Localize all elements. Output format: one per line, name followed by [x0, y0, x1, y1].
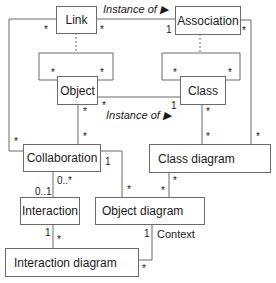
label-instance-of-top: Instance of ▶ [103, 4, 168, 15]
connector-lines [0, 0, 276, 283]
label-instance-of-mid: Instance of ▶ [106, 110, 171, 121]
node-link-label: Link [65, 14, 87, 26]
mult-assoc-left: 1 [166, 25, 172, 35]
mult-classdiag-right: * [256, 132, 260, 142]
mult-intdiag-right: * [142, 264, 146, 274]
mult-objdiag-context: 1 [144, 229, 150, 239]
mult-classdiag-down: * [173, 176, 177, 186]
mult-interaction-down: 1 [45, 228, 51, 238]
mult-class-loop-left: * [173, 68, 177, 78]
edge-link-collaboration [9, 19, 56, 151]
node-class-label: Class [188, 85, 218, 97]
node-object-diagram: Object diagram [95, 197, 205, 225]
node-collaboration: Collaboration [23, 144, 101, 172]
node-association-label: Association [177, 15, 238, 27]
mult-object-loop-right: * [100, 68, 104, 78]
node-interaction-diagram-label: Interaction diagram [14, 257, 117, 269]
mult-class-down: * [206, 107, 210, 117]
mult-intdiag-up: * [57, 235, 61, 245]
mult-collab-left: * [14, 137, 18, 147]
node-interaction: Interaction [20, 197, 80, 225]
node-class: Class [180, 76, 226, 105]
node-interaction-diagram: Interaction diagram [5, 248, 139, 277]
mult-collab-down: 0..* [57, 176, 72, 186]
mult-objdiag-right: * [161, 186, 165, 196]
node-class-diagram-label: Class diagram [158, 153, 235, 165]
mult-object-down: * [83, 107, 87, 117]
node-link: Link [56, 6, 97, 34]
node-object-label: Object [60, 85, 95, 97]
mult-object-instance: * [102, 101, 106, 111]
mult-class-instance: 1 [171, 101, 177, 111]
mult-class-loop-right: * [228, 68, 232, 78]
node-association: Association [175, 6, 241, 35]
edge-collaboration-objectdiagram [100, 151, 122, 197]
label-context: Context [157, 229, 195, 240]
mult-collab-up: * [83, 132, 87, 142]
mult-link-right: * [100, 25, 104, 35]
node-object-diagram-label: Object diagram [102, 205, 183, 217]
node-object: Object [57, 76, 98, 105]
mult-object-loop-left: * [51, 68, 55, 78]
mult-collab-right: 1 [105, 157, 111, 167]
edge-association-classdiagram [240, 20, 251, 144]
node-interaction-label: Interaction [22, 205, 78, 217]
mult-link-left: * [44, 25, 48, 35]
mult-interaction-up: 0..1 [35, 187, 52, 197]
mult-assoc-right: * [242, 26, 246, 36]
mult-objdiag-left: * [127, 185, 131, 195]
node-class-diagram: Class diagram [149, 144, 271, 173]
mult-classdiag-up: * [206, 132, 210, 142]
node-collaboration-label: Collaboration [27, 152, 98, 164]
